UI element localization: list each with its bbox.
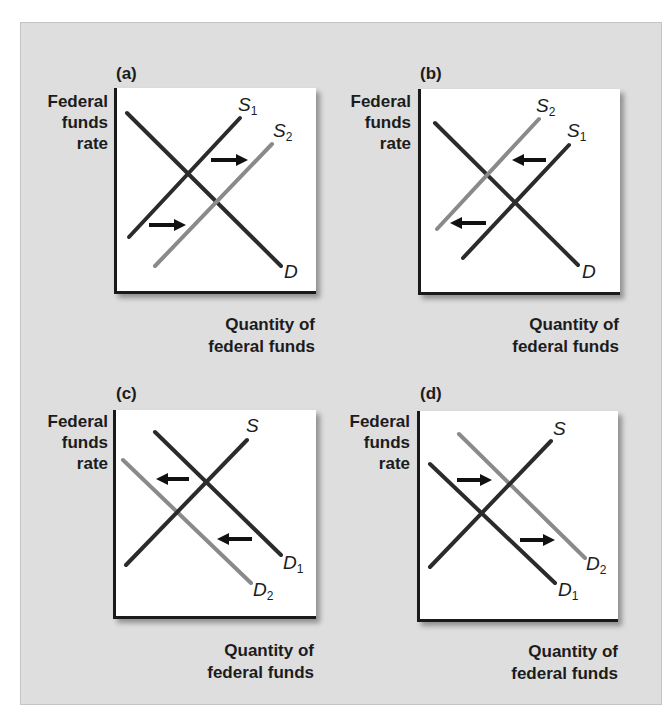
plot-curves (0, 0, 667, 725)
demand-curve-d1 (430, 464, 555, 583)
curve-label-d2: D2 (586, 554, 606, 576)
shift-right-arrow-icon (520, 534, 555, 546)
x-axis-label-line: Quantity of (458, 641, 618, 663)
x-axis-label: Quantity of federal funds (458, 641, 618, 685)
x-axis-label-line: federal funds (458, 663, 618, 685)
shift-right-arrow-icon (457, 474, 492, 486)
curve-label-s: S (553, 419, 566, 438)
curve-label-d1: D1 (558, 580, 578, 602)
